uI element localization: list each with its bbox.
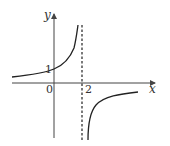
- y-axis-label: y: [43, 8, 51, 22]
- curve-right-branch: [88, 92, 138, 140]
- graph-canvas: y x 0 1 2: [0, 0, 170, 146]
- origin-label: 0: [46, 83, 53, 96]
- x-axis-label: x: [149, 82, 156, 96]
- asymptote-label: 2: [85, 83, 92, 96]
- y-intercept-label: 1: [45, 63, 52, 76]
- graph-figure: y x 0 1 2: [0, 0, 170, 146]
